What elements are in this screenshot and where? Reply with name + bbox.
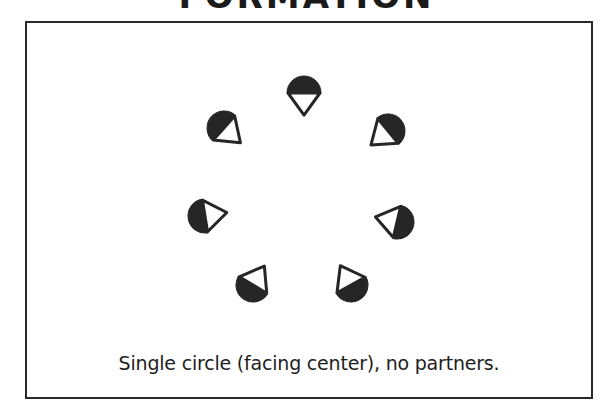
dancer-icon bbox=[325, 257, 374, 308]
dancer-icon bbox=[372, 200, 418, 242]
dancer-icon bbox=[230, 257, 279, 308]
dancer-icon bbox=[186, 196, 230, 236]
diagram-caption: Single circle (facing center), no partne… bbox=[26, 352, 592, 374]
dancer-icon bbox=[287, 76, 321, 115]
dancer-icon bbox=[360, 107, 412, 158]
dancer-icon bbox=[200, 104, 252, 155]
